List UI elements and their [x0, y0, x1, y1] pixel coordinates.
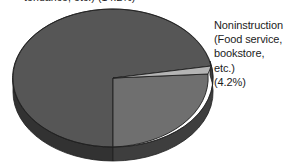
pie-chart-figure: tendance, etc.) (14.2%) Noninstruction (… [0, 0, 301, 168]
callout-line-2: (Food service, [214, 32, 301, 46]
callout-line-1: Noninstruction [214, 18, 301, 32]
callout-line-4: etc.) [214, 61, 301, 75]
callout-line-5: (4.2%) [214, 75, 301, 89]
pie-slice-institutional-support [113, 74, 208, 147]
noninstruction-callout-label: Noninstruction (Food service, bookstore,… [214, 18, 301, 89]
callout-line-3: bookstore, [214, 46, 301, 60]
pie-top-face [13, 9, 213, 147]
